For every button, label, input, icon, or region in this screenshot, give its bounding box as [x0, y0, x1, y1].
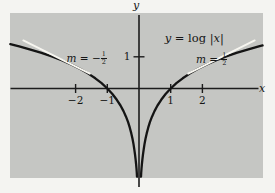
x-tick-label: 1 [167, 94, 174, 106]
slope-fraction-left: 12 [101, 51, 107, 67]
slope-label-left: m = −12 [45, 40, 115, 77]
plot-svg: −2−1121 [0, 0, 275, 193]
x-tick-label: 2 [199, 94, 206, 106]
slope-var-right: m [196, 52, 206, 64]
x-tick-label: −2 [68, 94, 83, 106]
y-axis-label: y [129, 0, 143, 11]
y-tick-label: 1 [124, 50, 131, 62]
fraction-denominator-left: 2 [101, 59, 107, 66]
figure-canvas: −2−1121 y = log |x| m = −12 m = 12 y x [0, 0, 275, 193]
slope-rel-left: = − [76, 51, 100, 63]
x-axis-label: x [255, 83, 269, 94]
slope-fraction-right: 12 [221, 52, 227, 68]
fraction-denominator-right: 2 [221, 60, 227, 67]
slope-rel-right: = [206, 52, 221, 64]
slope-label-right: m = 12 [175, 41, 235, 78]
slope-var-left: m [66, 51, 76, 63]
